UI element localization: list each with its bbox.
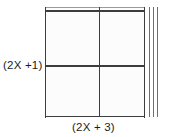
rectangle-top-edge [45,10,145,12]
horizontal-divider-line [45,65,145,67]
diagram-canvas: (2X +1) (2X + 3) [0,0,169,137]
rectangle-left-edge [45,7,46,118]
unit-strip-line-2 [153,7,154,117]
rectangle-top-hairline [45,7,145,8]
rectangle-bottom-edge [45,116,145,117]
height-dimension-label: (2X +1) [3,59,42,71]
width-dimension-label: (2X + 3) [72,121,115,133]
rectangle-right-edge [144,7,145,118]
unit-strip-line-1 [149,7,150,117]
vertical-divider-line [99,7,100,117]
area-model-rectangle [45,7,145,117]
unit-strip-line-3 [157,7,158,117]
